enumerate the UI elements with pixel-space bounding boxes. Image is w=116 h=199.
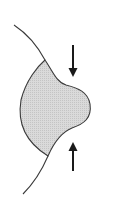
shaded-protrusion [20,60,90,156]
boundary-curve-lower [23,156,48,194]
arrow-up-icon [69,142,78,171]
arrow-down-icon [69,45,78,77]
boundary-curve-upper [14,25,45,60]
diagram-canvas [0,0,116,199]
